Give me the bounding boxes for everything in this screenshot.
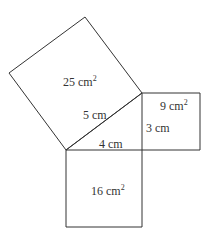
large-square-area: 25 cm2 bbox=[63, 74, 97, 89]
medium-square-area: 16 cm2 bbox=[91, 183, 125, 198]
hypotenuse-label: 5 cm bbox=[83, 108, 107, 122]
small-square-area: 9 cm2 bbox=[160, 98, 188, 113]
vertical-leg-label: 3 cm bbox=[146, 121, 170, 135]
pythagorean-diagram: 25 cm2 9 cm2 16 cm2 5 cm 4 cm 3 cm bbox=[0, 0, 211, 245]
horizontal-leg-label: 4 cm bbox=[99, 137, 123, 151]
